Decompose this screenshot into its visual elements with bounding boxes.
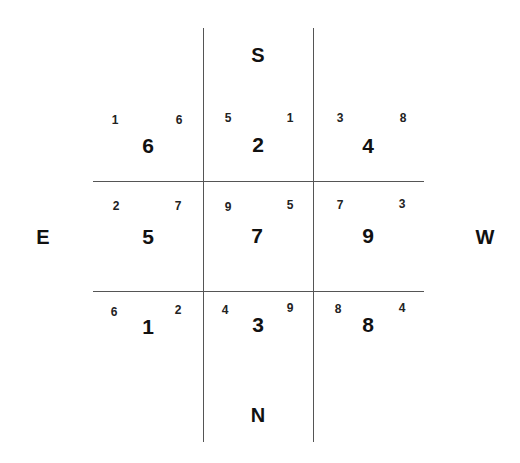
cell-left-number: 1 xyxy=(112,113,119,127)
cell-right-number: 6 xyxy=(176,113,183,127)
grid-line-horizontal-bottom xyxy=(93,291,424,292)
cell-main-number: 2 xyxy=(252,133,264,157)
direction-label-right: W xyxy=(476,226,495,249)
cell-right-number: 4 xyxy=(399,301,406,315)
cell-right-number: 9 xyxy=(287,301,294,315)
cell-left-number: 5 xyxy=(225,111,232,125)
cell-main-number: 4 xyxy=(362,134,374,158)
direction-label-left: E xyxy=(36,226,49,249)
cell-left-number: 4 xyxy=(222,303,229,317)
cell-left-number: 3 xyxy=(337,111,344,125)
cell-main-number: 9 xyxy=(362,224,374,248)
cell-right-number: 7 xyxy=(175,199,182,213)
cell-left-number: 2 xyxy=(113,199,120,213)
cell-main-number: 8 xyxy=(362,313,374,337)
cell-left-number: 9 xyxy=(225,200,232,214)
cell-right-number: 2 xyxy=(175,303,182,317)
grid-line-horizontal-top xyxy=(93,181,424,182)
cell-left-number: 7 xyxy=(337,198,344,212)
grid-line-vertical-right xyxy=(313,28,314,442)
cell-main-number: 1 xyxy=(142,315,154,339)
cell-main-number: 7 xyxy=(251,224,263,248)
cell-right-number: 8 xyxy=(400,111,407,125)
grid-line-vertical-left xyxy=(203,28,204,442)
cell-right-number: 3 xyxy=(399,197,406,211)
cell-left-number: 8 xyxy=(335,302,342,316)
cell-left-number: 6 xyxy=(111,305,118,319)
cell-right-number: 1 xyxy=(287,111,294,125)
cell-main-number: 5 xyxy=(142,225,154,249)
direction-label-top: S xyxy=(251,44,264,67)
cell-right-number: 5 xyxy=(287,198,294,212)
cell-main-number: 6 xyxy=(142,134,154,158)
direction-label-bottom: N xyxy=(251,404,265,427)
cell-main-number: 3 xyxy=(252,313,264,337)
